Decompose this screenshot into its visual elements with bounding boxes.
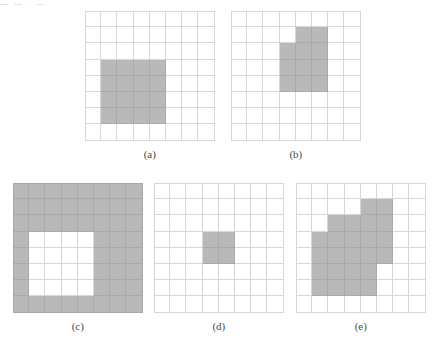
grid-cell-empty: [247, 11, 263, 27]
grid-cell-empty: [328, 92, 344, 108]
grid-cell-empty: [182, 60, 198, 76]
grid-cell-empty: [263, 11, 279, 27]
grid-cell-filled: [150, 60, 166, 76]
grid-cell-empty: [393, 248, 409, 264]
grid-cell-empty: [328, 11, 344, 27]
grid-cell-empty: [393, 280, 409, 296]
panel-caption-e: (e): [296, 320, 426, 332]
grid-cell-filled: [29, 215, 45, 231]
grid-cell-filled: [62, 215, 78, 231]
figure-panel-a: (a): [85, 11, 215, 141]
grid-cell-empty: [117, 27, 133, 43]
grid-cell-empty: [45, 264, 61, 280]
grid-cell-empty: [45, 248, 61, 264]
grid-cell-empty: [170, 264, 186, 280]
grid-cell-empty: [166, 92, 182, 108]
grid-cell-empty: [134, 43, 150, 59]
grid-cell-empty: [409, 215, 425, 231]
grid-cell-filled: [126, 232, 142, 248]
grid-cell-filled: [203, 248, 219, 264]
grid-cell-filled: [280, 43, 296, 59]
grid-cell-empty: [219, 183, 235, 199]
grid-cell-empty: [170, 183, 186, 199]
grid-cell-filled: [219, 232, 235, 248]
grid-cell-filled: [117, 92, 133, 108]
grid-cell-empty: [344, 60, 360, 76]
grid-cell-filled: [110, 199, 126, 215]
grid-cell-empty: [235, 296, 251, 312]
grid-cell-empty: [312, 11, 328, 27]
grid-cell-empty: [280, 92, 296, 108]
grid-cell-filled: [312, 60, 328, 76]
grid-cell-empty: [154, 296, 170, 312]
grid-cell-empty: [328, 124, 344, 140]
grid-cell-empty: [344, 108, 360, 124]
grid-cell-empty: [203, 264, 219, 280]
grid-cell-empty: [203, 199, 219, 215]
figure-panel-c: (c): [13, 183, 143, 313]
grid-cell-filled: [126, 199, 142, 215]
grid-cell-empty: [345, 296, 361, 312]
grid-cell-empty: [182, 92, 198, 108]
grid-cell-empty: [344, 92, 360, 108]
grid-cell-empty: [344, 43, 360, 59]
grid-cell-filled: [361, 215, 377, 231]
grid-cell-filled: [134, 60, 150, 76]
grid-cell-empty: [296, 215, 312, 231]
grid-cell-filled: [296, 76, 312, 92]
grid-cell-filled: [328, 248, 344, 264]
grid-cell-filled: [101, 92, 117, 108]
grid-cell-empty: [328, 108, 344, 124]
grid-cell-filled: [110, 248, 126, 264]
grid-cell-empty: [235, 183, 251, 199]
grid-cell-empty: [85, 76, 101, 92]
grid-cell-empty: [344, 124, 360, 140]
grid-cell-empty: [150, 11, 166, 27]
grid-cell-filled: [361, 199, 377, 215]
grid-cell-empty: [235, 199, 251, 215]
grid-cell-empty: [117, 124, 133, 140]
grid-cell-empty: [328, 76, 344, 92]
grid-cell-empty: [393, 183, 409, 199]
grid-cell-empty: [134, 27, 150, 43]
grid-cell-filled: [13, 248, 29, 264]
grid-cell-empty: [247, 60, 263, 76]
grid-cell-empty: [166, 76, 182, 92]
grid-cell-empty: [166, 60, 182, 76]
grid-cell-empty: [267, 296, 283, 312]
grid-cell-empty: [247, 92, 263, 108]
grid-cell-filled: [110, 264, 126, 280]
panel-caption-a: (a): [85, 148, 215, 160]
grid-cell-empty: [280, 11, 296, 27]
grid-cell-filled: [101, 60, 117, 76]
grid-cell-empty: [312, 296, 328, 312]
grid-cell-empty: [29, 248, 45, 264]
grid-cell-filled: [94, 199, 110, 215]
grid-cell-empty: [150, 27, 166, 43]
figure-panel-b: (b): [231, 11, 361, 141]
grid-cell-filled: [78, 199, 94, 215]
grid-cell-empty: [263, 43, 279, 59]
grid-cell-empty: [85, 27, 101, 43]
grid-cell-empty: [344, 76, 360, 92]
grid-cell-empty: [85, 108, 101, 124]
grid-cell-filled: [94, 248, 110, 264]
grid-cell-empty: [312, 215, 328, 231]
grid-cell-filled: [13, 215, 29, 231]
grid-cell-filled: [296, 27, 312, 43]
grid-cell-empty: [377, 264, 393, 280]
grid-cell-empty: [78, 248, 94, 264]
grid-cell-empty: [377, 296, 393, 312]
pixel-grid-d: [154, 183, 284, 313]
grid-cell-filled: [94, 183, 110, 199]
grid-cell-empty: [231, 27, 247, 43]
grid-cell-filled: [78, 215, 94, 231]
grid-cell-empty: [154, 248, 170, 264]
grid-cell-empty: [296, 264, 312, 280]
grid-cell-filled: [110, 232, 126, 248]
grid-cell-filled: [312, 248, 328, 264]
grid-cell-empty: [345, 183, 361, 199]
grid-cell-empty: [231, 108, 247, 124]
grid-cell-empty: [361, 296, 377, 312]
grid-cell-empty: [296, 92, 312, 108]
